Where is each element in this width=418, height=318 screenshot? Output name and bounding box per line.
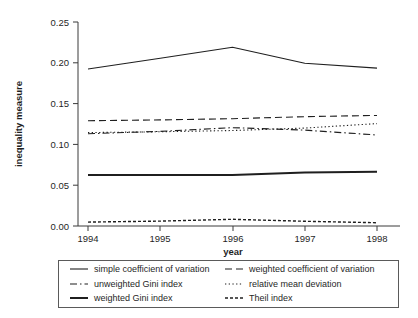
legend-entries-group: simple coefficient of variationweighted …: [70, 264, 374, 303]
series-line-weighted-coefficient-of-variation: [88, 115, 377, 120]
legend-label-relative-mean-deviation: relative mean deviation: [249, 279, 342, 289]
x-axis-ticks: [88, 226, 377, 231]
legend-label-weighted-gini-index: weighted Gini index: [93, 293, 173, 303]
y-tick-label: 0.05: [51, 180, 70, 191]
series-line-unweighted-gini-index: [88, 128, 377, 135]
inequality-measure-line-chart: 0.25 0.20 0.15 0.10 0.05 0.00 1994 1995 …: [0, 0, 418, 318]
series-line-weighted-gini-index: [88, 172, 377, 175]
x-tick-label: 1997: [294, 233, 315, 244]
y-axis-title: inequality measure: [13, 81, 24, 167]
y-tick-label: 0.20: [51, 57, 70, 68]
y-tick-label: 0.15: [51, 98, 70, 109]
x-axis-title: year: [223, 246, 243, 257]
y-tick-label: 0.00: [51, 221, 70, 232]
series-line-theil-index: [88, 219, 377, 222]
chart-svg: 0.25 0.20 0.15 0.10 0.05 0.00 1994 1995 …: [0, 0, 418, 318]
x-tick-label: 1995: [149, 233, 170, 244]
y-tick-label: 0.10: [51, 139, 70, 150]
legend-label-weighted-coefficient-of-variation: weighted coefficient of variation: [248, 264, 374, 274]
y-tick-label: 0.25: [51, 17, 70, 28]
y-axis-tick-labels: 0.25 0.20 0.15 0.10 0.05 0.00: [51, 17, 70, 232]
legend-label-simple-coefficient-of-variation: simple coefficient of variation: [94, 264, 209, 274]
legend-label-theil-index: Theil index: [249, 293, 293, 303]
x-tick-label: 1994: [77, 233, 98, 244]
x-tick-label: 1998: [366, 233, 387, 244]
legend-label-unweighted-gini-index: unweighted Gini index: [94, 279, 183, 289]
x-axis-tick-labels: 1994 1995 1996 1997 1998: [77, 233, 387, 244]
data-series-group: [88, 47, 377, 222]
series-line-simple-coefficient-of-variation: [88, 47, 377, 69]
series-line-relative-mean-deviation: [88, 124, 377, 133]
x-tick-label: 1996: [222, 233, 243, 244]
y-axis-ticks: [73, 22, 78, 226]
